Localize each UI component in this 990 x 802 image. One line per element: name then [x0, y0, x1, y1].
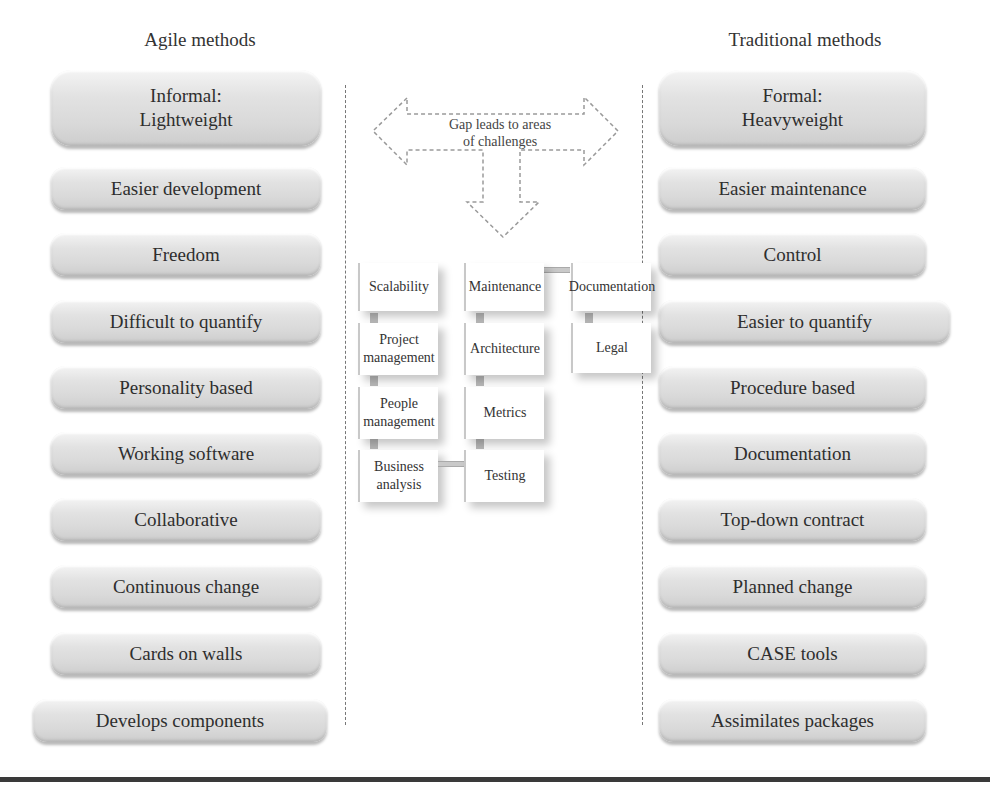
- challenge-box-business-analysis: Business analysis: [358, 450, 438, 502]
- pill-label: Cards on walls: [130, 642, 243, 666]
- traditional-item: Assimilates packages: [659, 699, 926, 742]
- traditional-item: Easier maintenance: [659, 167, 926, 210]
- challenge-label: Scalability: [369, 278, 429, 296]
- gap-arrow-label-line2: of challenges: [430, 133, 570, 150]
- pill-label: Freedom: [152, 243, 220, 267]
- challenge-box-documentation: Documentation: [571, 263, 651, 311]
- pill-label: Working software: [118, 442, 254, 466]
- pill-label: Collaborative: [134, 508, 237, 532]
- traditional-item: Control: [659, 233, 926, 276]
- gap-arrow-label: Gap leads to areas of challenges: [430, 116, 570, 150]
- traditional-item: Documentation: [659, 432, 926, 475]
- pill-label: Planned change: [733, 575, 853, 599]
- challenge-label: Legal: [596, 339, 628, 357]
- challenge-box-testing: Testing: [464, 450, 544, 502]
- traditional-item: Procedure based: [659, 366, 926, 409]
- gap-arrow-label-line1: Gap leads to areas: [430, 116, 570, 133]
- pill-label: Assimilates packages: [711, 709, 874, 733]
- traditional-item: Top-down contract: [659, 498, 926, 541]
- pill-label: Continuous change: [113, 575, 259, 599]
- pill-label: Easier maintenance: [718, 177, 866, 201]
- traditional-item-formal-heavyweight: Formal: Heavyweight: [659, 70, 926, 146]
- connector: [370, 376, 378, 386]
- agile-item: Collaborative: [51, 498, 321, 541]
- connector: [585, 313, 593, 323]
- connector: [370, 439, 378, 449]
- pill-label: Personality based: [119, 376, 253, 400]
- pill-label: Easier development: [111, 177, 261, 201]
- agile-item: Continuous change: [51, 565, 321, 608]
- challenge-label: Testing: [484, 467, 525, 485]
- pill-label-line2: Heavyweight: [742, 108, 843, 132]
- pill-label: Documentation: [734, 442, 851, 466]
- challenge-box-maintenance: Maintenance: [464, 263, 544, 311]
- agile-item: Freedom: [51, 233, 321, 276]
- traditional-item: Easier to quantify: [659, 300, 950, 343]
- connector: [544, 267, 570, 273]
- challenge-box-people-management: People management: [358, 387, 438, 439]
- pill-label: Top-down contract: [721, 508, 865, 532]
- pill-label-line1: Formal:: [762, 84, 822, 108]
- challenge-box-legal: Legal: [571, 323, 651, 373]
- challenge-box-metrics: Metrics: [464, 387, 544, 439]
- agile-methods-title: Agile methods: [70, 29, 330, 51]
- pill-label: Control: [763, 243, 821, 267]
- challenge-box-architecture: Architecture: [464, 323, 544, 375]
- connector: [476, 376, 484, 386]
- pill-label: CASE tools: [747, 642, 837, 666]
- pill-label-line1: Informal:: [150, 84, 222, 108]
- challenge-box-scalability: Scalability: [358, 263, 438, 311]
- challenge-label-line1: People: [380, 395, 418, 413]
- caption-separator-rule: [0, 777, 990, 782]
- pill-label: Difficult to quantify: [110, 310, 263, 334]
- challenge-label: Maintenance: [469, 278, 541, 296]
- agile-item: Cards on walls: [51, 632, 321, 675]
- left-dashed-divider: [345, 85, 346, 725]
- challenge-label-line1: Business: [374, 458, 424, 476]
- challenge-label-line2: management: [363, 413, 435, 431]
- agile-item: Personality based: [51, 366, 321, 409]
- pill-label: Procedure based: [730, 376, 855, 400]
- agile-item: Working software: [51, 432, 321, 475]
- challenge-label-line2: management: [363, 349, 435, 367]
- figure-caption-cropped: [0, 792, 990, 802]
- agile-item: Difficult to quantify: [51, 300, 321, 343]
- connector: [370, 313, 378, 323]
- agile-item: Develops components: [33, 699, 327, 742]
- traditional-item: Planned change: [659, 565, 926, 608]
- agile-item-informal-lightweight: Informal: Lightweight: [51, 70, 321, 146]
- challenge-label-line2: analysis: [376, 476, 421, 494]
- challenge-label-line1: Project: [379, 331, 419, 349]
- connector: [438, 461, 464, 467]
- pill-label: Easier to quantify: [737, 310, 872, 334]
- pill-label-line2: Lightweight: [140, 108, 233, 132]
- traditional-item: CASE tools: [659, 632, 926, 675]
- connector: [476, 439, 484, 449]
- pill-label: Develops components: [96, 709, 264, 733]
- connector: [476, 313, 484, 323]
- agile-item: Easier development: [51, 167, 321, 210]
- challenge-label: Documentation: [569, 278, 655, 296]
- traditional-methods-title: Traditional methods: [670, 29, 940, 51]
- challenge-label: Metrics: [484, 404, 527, 422]
- challenge-label: Architecture: [470, 340, 540, 358]
- right-dashed-divider: [642, 85, 643, 725]
- challenge-box-project-management: Project management: [358, 323, 438, 375]
